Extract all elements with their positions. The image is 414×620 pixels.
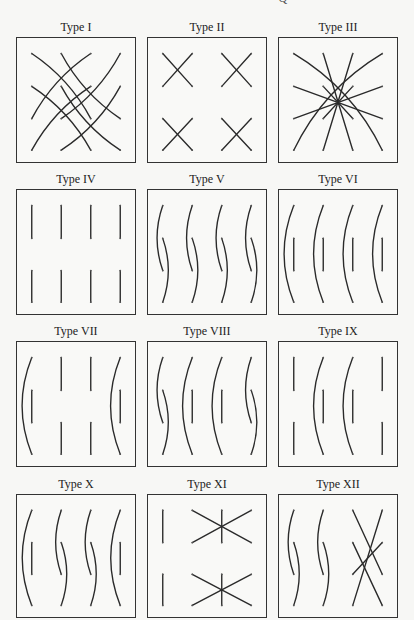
grid-dot [381, 237, 383, 239]
panel-type-x [16, 494, 136, 618]
grid-dot [322, 118, 324, 120]
grid-dot [352, 389, 354, 391]
grid-dot [119, 422, 121, 424]
grid-dot [250, 509, 252, 511]
grid-dot [60, 453, 62, 455]
grid-dot [31, 149, 33, 151]
grid-dot [322, 509, 324, 511]
grid-dot [352, 573, 354, 575]
grid-dot [250, 357, 252, 359]
grid-dot [250, 85, 252, 87]
stroke-arc [251, 238, 257, 302]
grid-dot [60, 118, 62, 120]
grid-dot [322, 270, 324, 272]
grid-dot [381, 542, 383, 544]
grid-dot [221, 237, 223, 239]
stroke-arc [314, 206, 324, 303]
panel-title-type-vi: Type VI [278, 172, 398, 187]
grid-dot [322, 389, 324, 391]
panel-title-type-vii: Type VII [16, 324, 136, 339]
stroke-arc [163, 390, 169, 454]
grid-dot [60, 301, 62, 303]
grid-dot [352, 422, 354, 424]
grid-dot [90, 422, 92, 424]
grid-dot [352, 85, 354, 87]
grid-dot [31, 85, 33, 87]
grid-dot [221, 509, 223, 511]
grid-dot [322, 542, 324, 544]
grid-dot [191, 542, 193, 544]
grid-dot [119, 453, 121, 455]
panel-type-iii [278, 37, 398, 163]
stroke-arc [22, 358, 32, 455]
grid-dot [119, 389, 121, 391]
grid-dot [191, 53, 193, 55]
grid-dot [293, 149, 295, 151]
grid-dot [322, 453, 324, 455]
panel-title-type-i: Type I [16, 20, 136, 35]
grid-dot [221, 357, 223, 359]
grid-dot [162, 301, 164, 303]
grid-dot [221, 270, 223, 272]
grid-dot [119, 149, 121, 151]
panel-title-type-iii: Type III [278, 20, 398, 35]
grid-dot [322, 205, 324, 207]
grid-dot [162, 118, 164, 120]
grid-dot [191, 237, 193, 239]
grid-dot [60, 422, 62, 424]
stroke-arc [216, 206, 222, 271]
grid-dot [191, 389, 193, 391]
panel-type-viii [147, 341, 267, 467]
grid-dot [191, 509, 193, 511]
grid-dot [90, 509, 92, 511]
grid-dot [162, 604, 164, 606]
panel-drawing [279, 342, 397, 466]
grid-dot [90, 270, 92, 272]
grid-dot [352, 357, 354, 359]
grid-dot [162, 149, 164, 151]
panel-drawing [148, 495, 266, 617]
grid-dot [381, 357, 383, 359]
grid-dot [221, 573, 223, 575]
grid-dot [119, 573, 121, 575]
grid-dot [60, 604, 62, 606]
grid-dot [31, 237, 33, 239]
panel-type-ix [278, 341, 398, 467]
grid-dot [60, 509, 62, 511]
grid-dot [352, 542, 354, 544]
grid-dot [221, 205, 223, 207]
grid-dot [293, 205, 295, 207]
grid-dot [221, 301, 223, 303]
panel-drawing [17, 495, 135, 617]
stroke-arc [157, 358, 163, 423]
grid-dot [119, 85, 121, 87]
grid-dot [31, 509, 33, 511]
grid-dot [322, 604, 324, 606]
panel-drawing [279, 495, 397, 617]
panel-title-type-xii: Type XII [278, 477, 398, 492]
grid-dot [352, 604, 354, 606]
grid-dot [119, 118, 121, 120]
panel-title-type-iv: Type IV [16, 172, 136, 187]
grid-dot [352, 149, 354, 151]
grid-dot [90, 542, 92, 544]
grid-dot [119, 270, 121, 272]
grid-dot [60, 205, 62, 207]
panel-type-iv [16, 189, 136, 315]
grid-dot [293, 604, 295, 606]
grid-dot [250, 270, 252, 272]
grid-dot [31, 389, 33, 391]
grid-dot [162, 85, 164, 87]
grid-dot [31, 604, 33, 606]
panel-type-vi [278, 189, 398, 315]
grid-dot [90, 149, 92, 151]
grid-dot [250, 542, 252, 544]
grid-dot [293, 301, 295, 303]
grid-dot [250, 301, 252, 303]
grid-dot [119, 509, 121, 511]
grid-dot [162, 453, 164, 455]
grid-dot [221, 422, 223, 424]
grid-dot [221, 53, 223, 55]
grid-dot [293, 357, 295, 359]
grid-dot [60, 237, 62, 239]
